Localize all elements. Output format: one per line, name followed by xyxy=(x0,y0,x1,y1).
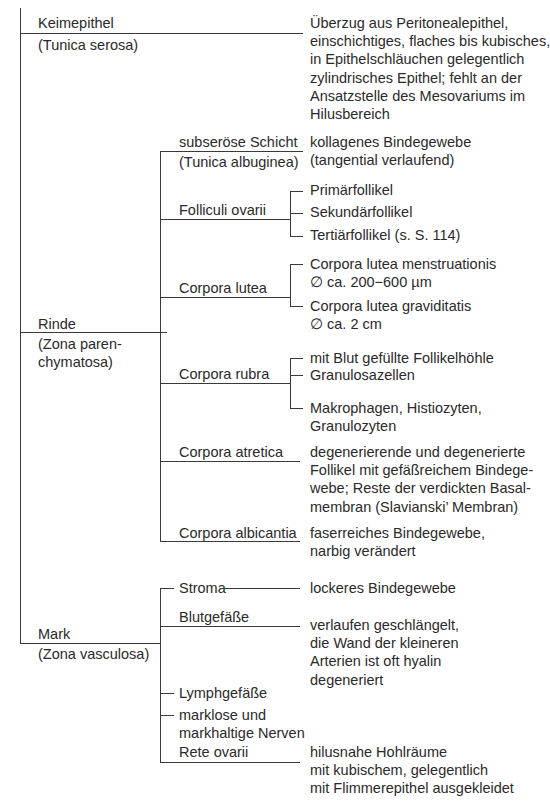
blut-desc: verlaufen geschlängelt, die Wand der kle… xyxy=(310,616,459,689)
rubra-makrophagen: Makrophagen, Histiozyten, Granulozyten xyxy=(310,399,482,435)
lutea-label: Corpora lutea xyxy=(179,279,267,297)
albicantia-label: Corpora albicantia xyxy=(179,524,297,542)
primaerfollikel: Primärfollikel xyxy=(310,181,393,199)
subseroese-label: subseröse Schicht xyxy=(179,133,297,151)
tertiaerfollikel: Tertiärfollikel (s. S. 114) xyxy=(310,226,460,244)
keimepithel-desc: Überzug aus Peritonealepithel, einschich… xyxy=(310,14,550,123)
rubra-branch xyxy=(290,358,291,408)
folliculi-label: Folliculi ovarii xyxy=(179,201,266,219)
subseroese-connector xyxy=(160,151,303,152)
tick xyxy=(290,358,303,359)
rinde-sub2: chymatosa) xyxy=(38,353,113,371)
mark-label: Mark xyxy=(38,625,70,643)
rete-connector xyxy=(160,762,300,763)
atretica-label: Corpora atretica xyxy=(179,443,283,461)
tick xyxy=(290,375,303,376)
tick xyxy=(290,408,303,409)
lutea-branch xyxy=(290,264,291,306)
lutea-connector xyxy=(160,297,290,298)
mark-connector xyxy=(20,643,160,644)
tick xyxy=(290,191,303,192)
mark-branch-line xyxy=(160,588,161,762)
keimepithel-connector xyxy=(20,33,303,34)
tick xyxy=(290,264,303,265)
tick xyxy=(290,213,303,214)
rete-desc: hilusnahe Hohlräume mit kubischem, geleg… xyxy=(310,743,514,798)
lutea-menstruationis: Corpora lutea menstruationis ∅ ca. 200−6… xyxy=(310,255,496,291)
blut-connector xyxy=(160,626,300,627)
rubra-blut: mit Blut gefüllte Follikelhöhle xyxy=(310,349,494,367)
lymph-label: Lymphgefäße xyxy=(179,684,267,702)
rinde-branch-line xyxy=(160,151,161,541)
atretica-connector xyxy=(160,461,300,462)
rete-label: Rete ovarii xyxy=(179,743,248,761)
stroma-desc: lockeres Bindegewebe xyxy=(310,579,456,597)
stroma-tick xyxy=(160,588,174,589)
rubra-granulosa: Granulosazellen xyxy=(310,366,415,384)
nerven-label: marklose und markhaltige Nerven xyxy=(179,706,305,742)
rubra-label: Corpora rubra xyxy=(179,365,269,383)
stroma-label: Stroma xyxy=(179,579,226,597)
keimepithel-sub: (Tunica serosa) xyxy=(38,36,138,54)
rinde-label: Rinde xyxy=(38,315,76,333)
lutea-graviditatis: Corpora lutea graviditatis ∅ ca. 2 cm xyxy=(310,297,471,333)
rinde-sub1: (Zona paren- xyxy=(38,335,122,353)
rubra-connector xyxy=(160,383,290,384)
mark-sub: (Zona vasculosa) xyxy=(38,645,149,663)
stroma-connector xyxy=(221,588,300,589)
sekundaerfollikel: Sekundärfollikel xyxy=(310,203,412,221)
lymph-tick xyxy=(160,693,174,694)
trunk-line xyxy=(20,8,21,643)
nerven-tick xyxy=(160,715,174,716)
folliculi-connector xyxy=(160,219,290,220)
albicantia-desc: faserreiches Bindegewebe, narbig verände… xyxy=(310,524,485,560)
keimepithel-label: Keimepithel xyxy=(38,14,114,32)
blut-label: Blutgefäße xyxy=(179,608,249,626)
tick xyxy=(290,236,303,237)
subseroese-desc: kollagenes Bindegewebe (tangential verla… xyxy=(310,133,471,169)
subseroese-sub: (Tunica albuginea) xyxy=(179,153,299,171)
tick xyxy=(290,306,303,307)
atretica-desc: degenerierende und degenerierte Follikel… xyxy=(310,443,533,516)
